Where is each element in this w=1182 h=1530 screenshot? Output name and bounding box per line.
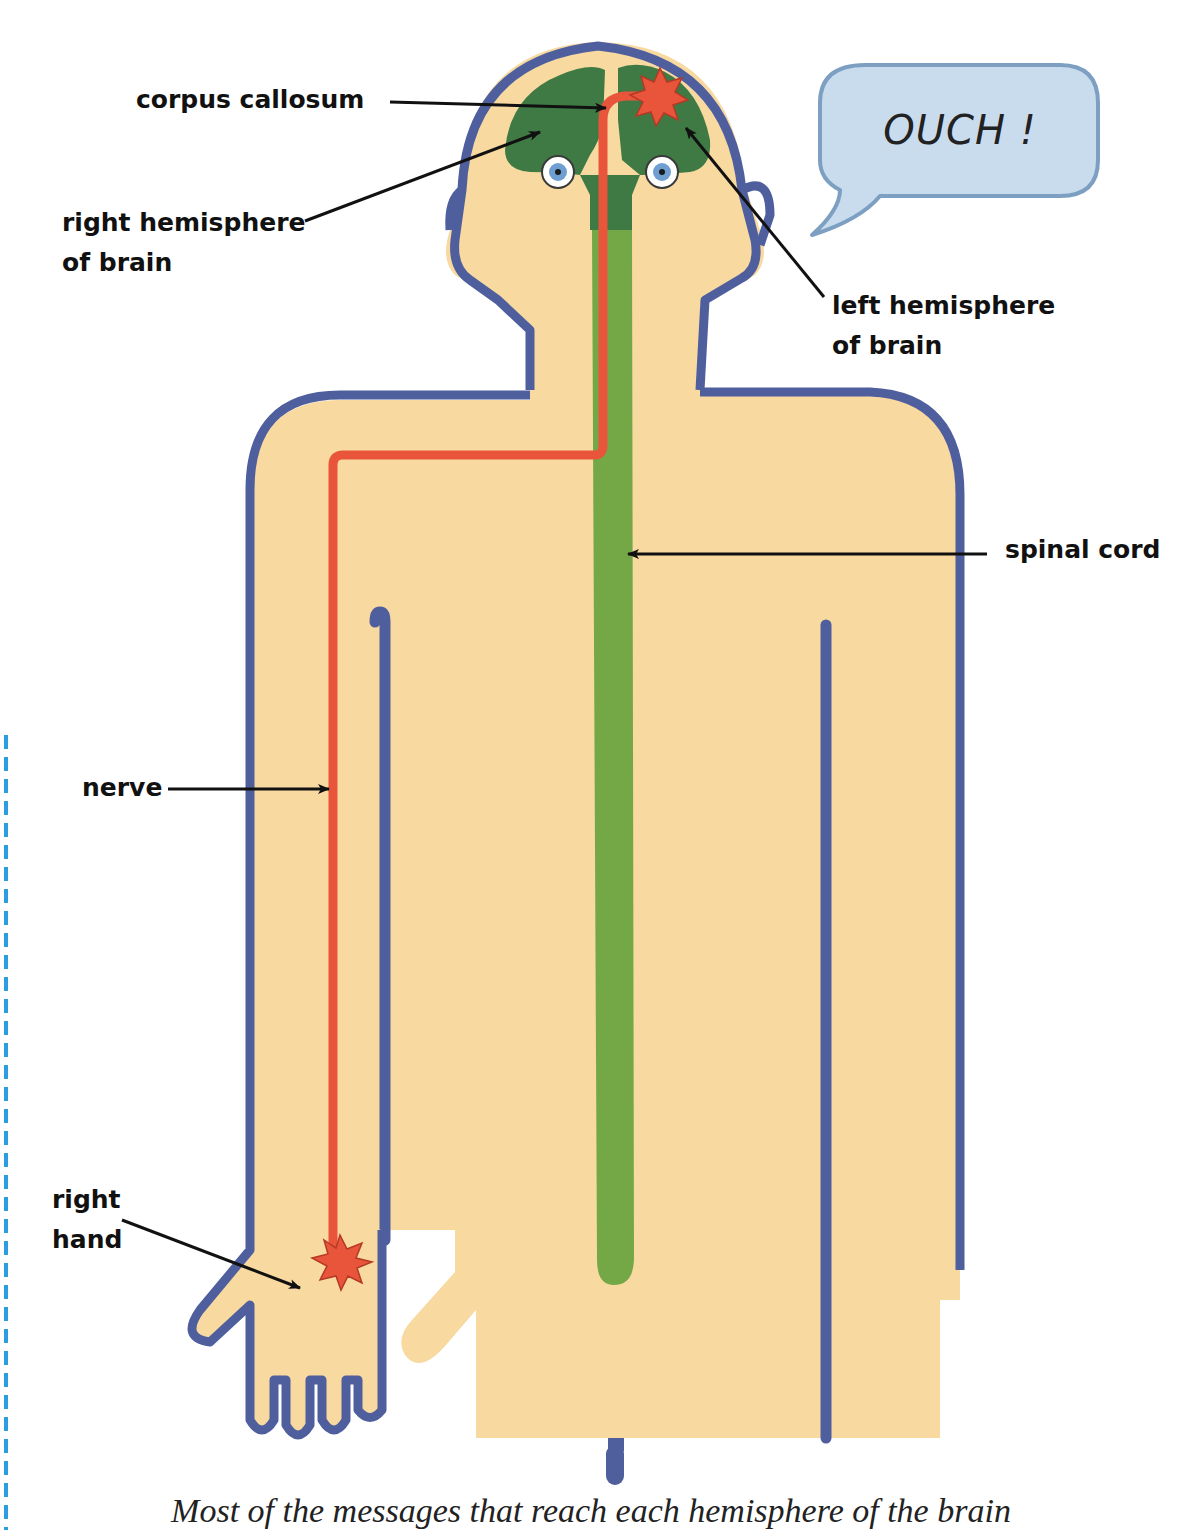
label-left-hemisphere-line2: of brain (832, 326, 942, 366)
label-right-hemisphere-line2: of brain (62, 243, 172, 283)
speech-bubble: OUCH ! (812, 65, 1098, 235)
label-right-hemisphere-line1: right hemisphere (62, 203, 305, 243)
label-left-hemisphere-line1: left hemisphere (832, 286, 1055, 326)
label-nerve: nerve (82, 768, 162, 808)
eye-left (646, 156, 678, 188)
label-right-hand-line2: hand (52, 1220, 122, 1260)
body-silhouette (192, 42, 960, 1485)
speech-bubble-text: OUCH ! (883, 107, 1037, 153)
figure-caption: Most of the messages that reach each hem… (0, 1492, 1182, 1530)
label-spinal-cord: spinal cord (1005, 530, 1161, 570)
label-corpus-callosum: corpus callosum (136, 80, 364, 120)
label-right-hand-line1: right (52, 1180, 121, 1220)
eye-right (542, 156, 574, 188)
diagram-stage: OUCH ! corpus callosum right hemisphere … (0, 0, 1182, 1530)
spinal-cord (592, 230, 634, 1285)
